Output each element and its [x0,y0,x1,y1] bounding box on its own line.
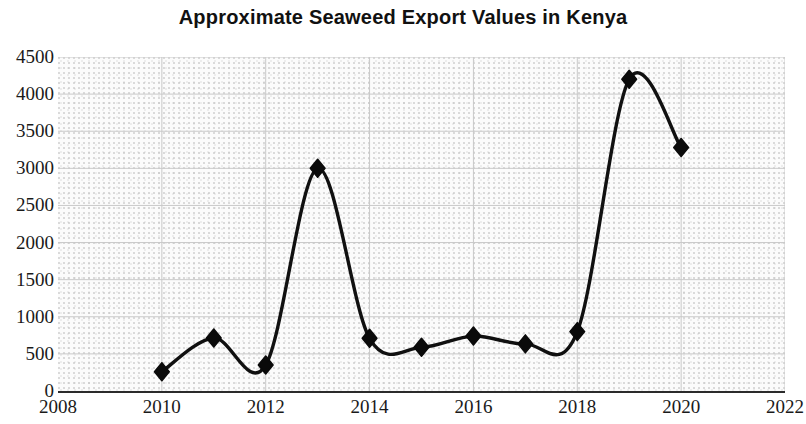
x-axis-tick-label: 2010 [143,396,181,418]
x-axis-tick-label: 2022 [766,396,804,418]
x-axis-tick-label: 2016 [454,396,492,418]
x-axis-tick-label: 2014 [351,396,389,418]
x-axis-tick-label: 2018 [558,396,596,418]
chart-container: Approximate Seaweed Export Values in Ken… [0,0,806,424]
x-axis-tick-label: 2008 [39,396,77,418]
x-axis-tick-label: 2020 [662,396,700,418]
x-axis-tick-labels: 20082010201220142016201820202022 [0,0,806,424]
x-axis-tick-label: 2012 [247,396,285,418]
